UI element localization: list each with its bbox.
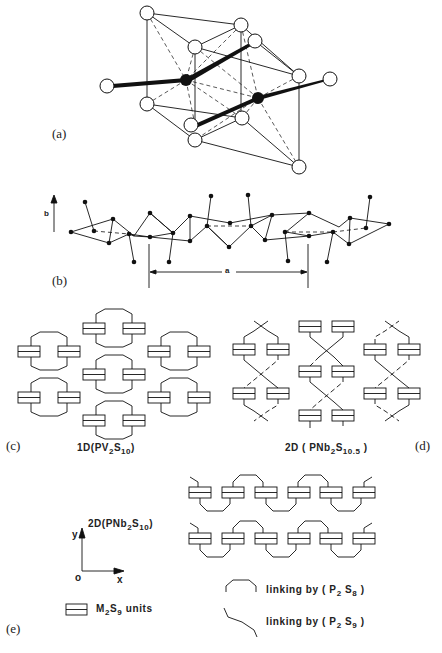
panel-b: b a (b)	[0, 170, 442, 300]
panel-label-b: (b)	[52, 273, 67, 289]
panel-e: 2D(PNb2S10) y o x M2S9 units linking by …	[0, 470, 442, 653]
m2s9-unit-group	[18, 309, 210, 439]
panel-label-c: (c)	[6, 438, 20, 454]
caption-2d-pnb2s10: 2D(PNb2S10)	[88, 518, 153, 532]
panel-label-a: (a)	[52, 126, 66, 142]
caption-1d-pv2s10: 1D(PV2S10)	[77, 442, 135, 456]
legend-m2s9-units: M2S9 units	[96, 603, 153, 617]
panel-c: (c) 1D(PV2S10)	[0, 300, 221, 470]
panel-a: (a)	[0, 0, 442, 170]
axis-label-y: y	[72, 529, 78, 540]
dimension-label-a: a	[225, 266, 230, 275]
2d-layer-chain-diagram	[0, 470, 442, 653]
axis-label-origin: o	[75, 572, 82, 583]
octahedra-structure	[0, 0, 442, 170]
axis-label-x: x	[117, 574, 123, 585]
panel-label-d: (d)	[415, 438, 430, 454]
caption-2d-pnb2s10-5: 2D ( PNb2S10.5 )	[285, 442, 368, 456]
legend-linking-p2s8: linking by ( P2 S8 )	[266, 584, 365, 598]
panel-label-e: (e)	[6, 621, 20, 637]
panel-d: 2D ( PNb2S10.5 ) (d)	[221, 300, 442, 470]
axis-label-b: b	[44, 209, 50, 218]
legend-linking-p2s9: linking by ( P2 S9 )	[266, 616, 365, 630]
